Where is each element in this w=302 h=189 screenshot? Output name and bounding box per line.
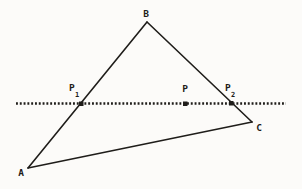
triangle-side-ab [28, 22, 147, 168]
point-p-label: P [182, 83, 188, 94]
triangle-side-ca [28, 122, 252, 168]
triangle-side-bc [147, 22, 252, 122]
vertex-c-label: C [256, 122, 262, 133]
point-p-marker [183, 102, 188, 107]
point-p2-subscript: 2 [231, 91, 235, 99]
geometry-figure: B A C P 1 P P 2 [0, 0, 302, 189]
point-p1-marker [79, 102, 84, 107]
triangle-transversal-diagram: B A C P 1 P P 2 [0, 0, 302, 189]
point-p1-subscript: 1 [75, 91, 79, 99]
vertex-b-label: B [143, 8, 149, 19]
point-p2-marker [229, 101, 234, 106]
vertex-a-label: A [18, 167, 24, 178]
